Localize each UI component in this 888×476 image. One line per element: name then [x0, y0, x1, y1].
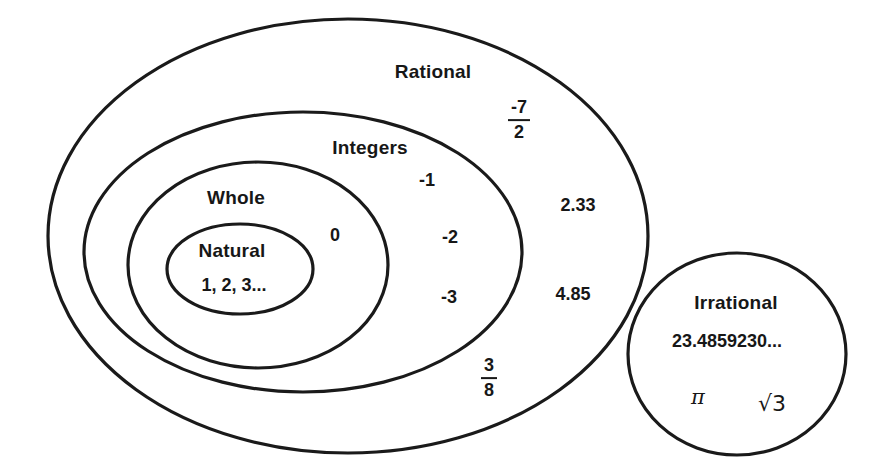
integer-member-neg-one: -1: [419, 170, 435, 190]
integer-member-neg-three: -3: [441, 287, 457, 307]
integers-set-label: Integers: [332, 137, 408, 158]
natural-members-label: 1, 2, 3...: [201, 275, 266, 295]
rational-member-2-33: 2.33: [560, 195, 595, 215]
rational-member-neg-seven-halves: -7 2: [508, 98, 530, 142]
rational-member-three-eighths: 3 8: [481, 356, 497, 400]
rational-set-label: Rational: [395, 61, 472, 82]
rational-member-4-85: 4.85: [555, 284, 590, 304]
label-layer: Rational Integers Whole Natural 1, 2, 3.…: [0, 0, 888, 476]
integer-member-neg-two: -2: [442, 227, 458, 247]
irrational-member-pi: π: [691, 386, 705, 410]
natural-set-label: Natural: [199, 240, 266, 261]
fraction-numerator: 3: [481, 356, 497, 376]
whole-member-zero: 0: [330, 225, 340, 245]
fraction-denominator: 8: [481, 380, 497, 400]
fraction-bar: [508, 119, 530, 121]
whole-set-label: Whole: [207, 187, 265, 208]
fraction-numerator: -7: [508, 98, 530, 118]
irrational-member-sqrt-three: √3: [758, 392, 786, 417]
fraction-denominator: 2: [508, 122, 530, 142]
irrational-member-decimal: 23.4859230...: [672, 331, 782, 351]
number-system-diagram: Rational Integers Whole Natural 1, 2, 3.…: [0, 0, 888, 476]
irrational-set-label: Irrational: [694, 292, 777, 313]
fraction-bar: [481, 377, 497, 379]
